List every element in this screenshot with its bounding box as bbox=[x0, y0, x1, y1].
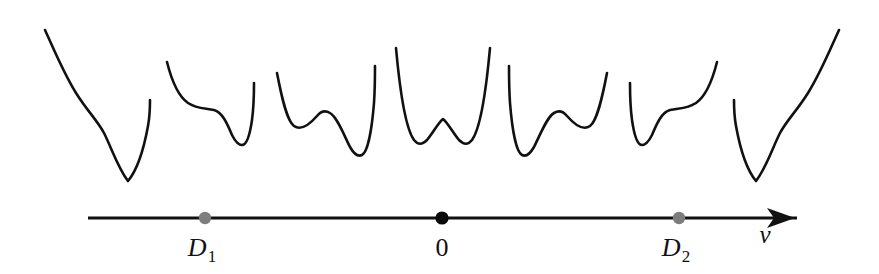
axis-tick-label-d2: D2 bbox=[661, 233, 690, 266]
well-segment-3 bbox=[277, 66, 375, 156]
potential-wells-svg: D1 0 D2 v bbox=[0, 0, 879, 274]
potential-wells-figure: D1 0 D2 v bbox=[0, 0, 879, 274]
well-segment-7 bbox=[734, 30, 839, 181]
axis-tick-label-d1-base: D bbox=[187, 233, 207, 262]
axis-name-label: v bbox=[759, 221, 771, 248]
axis-tick-label-origin: 0 bbox=[436, 233, 449, 262]
axis-tick-label-d1-subscript: 1 bbox=[208, 247, 217, 266]
axis-tick-label-d2-subscript: 2 bbox=[682, 247, 691, 266]
well-segment-4 bbox=[396, 48, 490, 144]
axis-tick-labels: D1 0 D2 v bbox=[187, 221, 772, 266]
potential-curve-group bbox=[45, 30, 839, 181]
tick-marker-d2 bbox=[673, 212, 685, 224]
well-segment-1 bbox=[45, 30, 150, 181]
axis-tick-label-d1: D1 bbox=[187, 233, 216, 266]
well-segment-2 bbox=[167, 62, 254, 145]
tick-marker-d1 bbox=[199, 212, 211, 224]
tick-marker-origin bbox=[435, 211, 448, 224]
axis-tick-label-d2-base: D bbox=[661, 233, 681, 262]
well-segment-5 bbox=[509, 66, 607, 156]
well-segment-6 bbox=[630, 62, 717, 145]
